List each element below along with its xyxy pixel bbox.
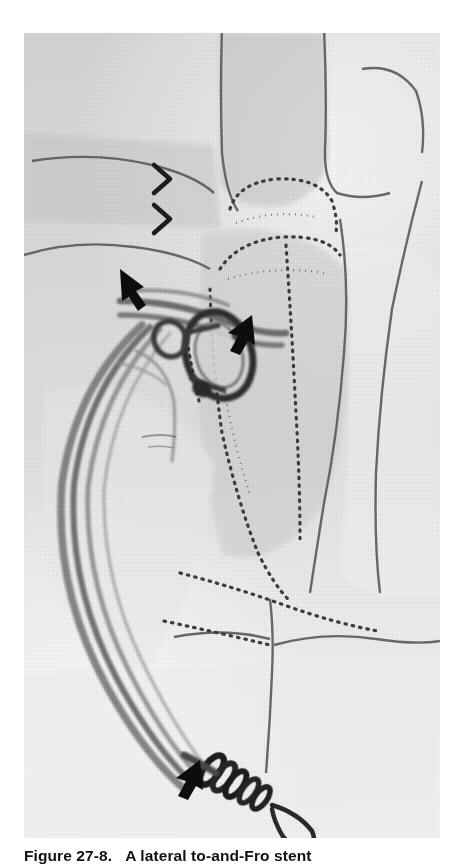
- figure-block: Figure 27-8.A lateral to-and-Fro stent: [0, 0, 463, 865]
- figure-page: Figure 27-8.A lateral to-and-Fro stent: [0, 0, 463, 865]
- figure-image: [24, 33, 440, 838]
- angiogram-illustration: [24, 33, 440, 838]
- figure-caption-label: Figure 27-8.: [24, 847, 112, 864]
- figure-caption-text: A lateral to-and-Fro stent: [125, 847, 311, 864]
- figure-caption: Figure 27-8.A lateral to-and-Fro stent: [24, 846, 444, 865]
